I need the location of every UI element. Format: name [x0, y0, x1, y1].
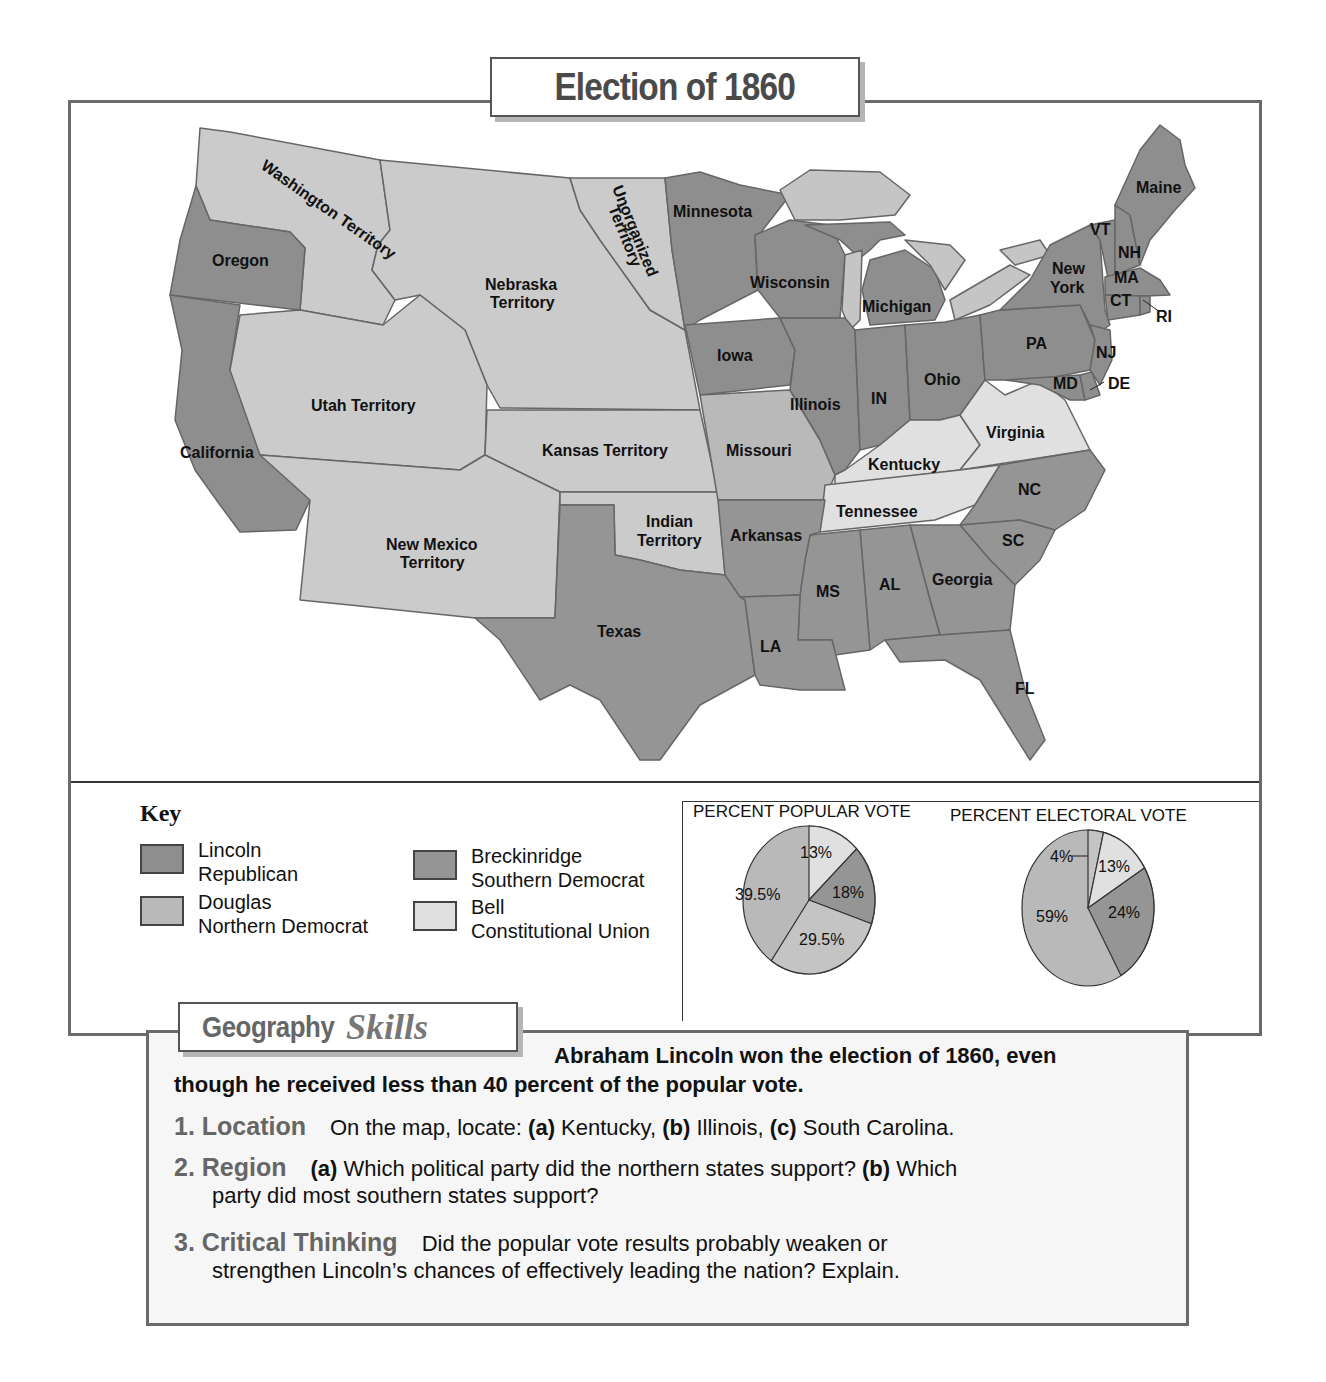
question-3: 3. Critical ThinkingDid the popular vote…	[174, 1228, 888, 1258]
label-de: DE	[1108, 375, 1131, 392]
q2-text: Which	[890, 1156, 957, 1181]
label-indian-1: Indian	[646, 513, 693, 530]
label-al: AL	[879, 576, 901, 593]
swatch-lincoln	[140, 844, 184, 874]
label-ms: MS	[816, 583, 840, 600]
label-nj: NJ	[1096, 344, 1116, 361]
popular-vote-pie: 13% 18% 39.5% 29.5%	[730, 822, 890, 982]
pie-label-douglas: 4%	[1050, 848, 1073, 865]
q1-text: On the map, locate:	[330, 1115, 528, 1140]
q2-a: (a)	[311, 1156, 338, 1181]
label-ct: CT	[1110, 292, 1132, 309]
q1-c: (c)	[770, 1115, 797, 1140]
map-key-divider	[71, 781, 1259, 783]
question-2: 2. Region(a) Which political party did t…	[174, 1153, 957, 1183]
key-sublabel: Constitutional Union	[471, 919, 650, 943]
q1-a: (a)	[528, 1115, 555, 1140]
swatch-douglas	[140, 896, 184, 926]
pie-label-lincoln: 39.5%	[735, 886, 780, 903]
label-tennessee: Tennessee	[836, 503, 918, 520]
label-md: MD	[1053, 375, 1078, 392]
region-utah-territory	[230, 295, 487, 470]
key-pie-divider	[682, 801, 683, 1021]
pie-label-bell: 13%	[1098, 858, 1130, 875]
question-1: 1. LocationOn the map, locate: (a) Kentu…	[174, 1112, 954, 1142]
key-item-douglas: DouglasNorthern Democrat	[140, 890, 368, 938]
q1-b: (b)	[662, 1115, 690, 1140]
label-kansas: Kansas Territory	[542, 442, 668, 459]
pie-label-breckinridge: 18%	[832, 884, 864, 901]
key-label: Breckinridge	[471, 844, 644, 868]
label-michigan: Michigan	[862, 298, 931, 315]
question-3-heading: 3. Critical Thinking	[174, 1228, 398, 1256]
q2-b: (b)	[862, 1156, 890, 1181]
label-kentucky: Kentucky	[868, 456, 940, 473]
label-in: IN	[871, 390, 887, 407]
label-ma: MA	[1114, 269, 1139, 286]
question-2-line2: party did most southern states support?	[212, 1182, 598, 1210]
label-new-mexico-1: New Mexico	[386, 536, 478, 553]
map-key: Key LincolnRepublican DouglasNorthern De…	[140, 800, 680, 980]
label-pa: PA	[1026, 335, 1047, 352]
popular-vote-title: PERCENT POPULAR VOTE	[693, 802, 911, 822]
question-1-heading: 1. Location	[174, 1112, 306, 1140]
electoral-vote-pie: 4% 13% 24% 59%	[1008, 822, 1168, 992]
label-new-mexico-2: Territory	[400, 554, 465, 571]
q3-text: Did the popular vote results probably we…	[422, 1231, 888, 1256]
label-georgia: Georgia	[932, 571, 993, 588]
label-ohio: Ohio	[924, 371, 961, 388]
key-sublabel: Northern Democrat	[198, 914, 368, 938]
label-arkansas: Arkansas	[730, 527, 802, 544]
key-sublabel: Republican	[198, 862, 298, 886]
label-nebraska-1: Nebraska	[485, 276, 557, 293]
label-sc: SC	[1002, 532, 1025, 549]
question-3-line2: strengthen Lincoln’s chances of effectiv…	[212, 1257, 900, 1285]
label-fl: FL	[1015, 680, 1035, 697]
skills-tab-word2: Skills	[346, 1006, 428, 1048]
swatch-breckinridge	[413, 850, 457, 880]
label-texas: Texas	[597, 623, 641, 640]
geography-skills-tab: Geography Skills	[178, 1002, 518, 1052]
label-virginia: Virginia	[986, 424, 1044, 441]
label-utah: Utah Territory	[311, 397, 416, 414]
q1-text: Kentucky,	[555, 1115, 662, 1140]
pie-label-breckinridge: 24%	[1108, 904, 1140, 921]
key-item-breckinridge: BreckinridgeSouthern Democrat	[413, 844, 644, 892]
label-maine: Maine	[1136, 179, 1181, 196]
label-new-york-2: York	[1050, 279, 1084, 296]
key-label: Douglas	[198, 890, 368, 914]
label-wisconsin: Wisconsin	[750, 274, 830, 291]
label-oregon: Oregon	[212, 252, 269, 269]
label-missouri: Missouri	[726, 442, 792, 459]
label-iowa: Iowa	[717, 347, 753, 364]
label-nc: NC	[1018, 481, 1042, 498]
pie-label-bell: 13%	[800, 844, 832, 861]
label-nebraska-2: Territory	[490, 294, 555, 311]
label-indian-2: Territory	[637, 532, 702, 549]
label-nh: NH	[1118, 244, 1141, 261]
pie-label-douglas: 29.5%	[799, 931, 844, 948]
skills-intro-line2: though he received less than 40 percent …	[174, 1072, 804, 1098]
key-title: Key	[140, 800, 181, 827]
map-title-box: Election of 1860	[490, 57, 860, 117]
key-label: Lincoln	[198, 838, 298, 862]
key-item-lincoln: LincolnRepublican	[140, 838, 298, 886]
skills-tab-word1: Geography	[202, 1010, 334, 1044]
us-map-1860: Washington Territory Oregon Nebraska Ter…	[0, 0, 1326, 790]
label-california: California	[180, 444, 254, 461]
q1-text: Illinois,	[690, 1115, 769, 1140]
label-new-york-1: New	[1052, 260, 1085, 277]
label-illinois: Illinois	[790, 396, 841, 413]
key-sublabel: Southern Democrat	[471, 868, 644, 892]
label-vt: VT	[1090, 221, 1111, 238]
key-label: Bell	[471, 895, 650, 919]
pie-label-lincoln: 59%	[1036, 908, 1068, 925]
label-minnesota: Minnesota	[673, 203, 752, 220]
key-item-bell: BellConstitutional Union	[413, 895, 650, 943]
skills-intro-line1: Abraham Lincoln won the election of 1860…	[554, 1043, 1056, 1069]
map-title: Election of 1860	[555, 66, 796, 109]
q2-text: Which political party did the northern s…	[337, 1156, 862, 1181]
label-la: LA	[760, 638, 782, 655]
q1-text: South Carolina.	[797, 1115, 955, 1140]
question-2-heading: 2. Region	[174, 1153, 287, 1181]
